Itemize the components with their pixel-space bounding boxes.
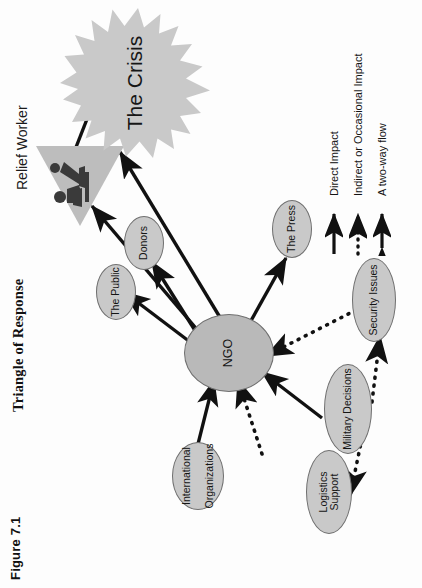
node-label-donors: Donors [138, 224, 150, 262]
dotted-arrow-icon [349, 204, 367, 256]
edge-security-ngo [266, 310, 356, 356]
node-military-decisions[interactable]: Military Decisions [324, 364, 372, 454]
node-label-the-press: The Press [286, 203, 298, 255]
node-label-the-public: The Public [110, 265, 122, 319]
node-label-logistics: Logistics Support [318, 451, 341, 533]
legend-label-direct: Direct Impact [328, 131, 340, 196]
node-the-press[interactable]: The Press [272, 200, 312, 258]
edge-intlorgs-ngo [198, 380, 214, 444]
node-label-intl-orgs: InternationalOrganizations [181, 440, 216, 513]
legend-label-twoway: A two-way flow [376, 123, 388, 196]
legend-label-indirect: Indirect or Occasional Impact [352, 54, 364, 196]
edge-ngo-press [248, 258, 286, 326]
double-arrow-icon [373, 204, 391, 256]
node-label-crisis: The Crisis [60, 8, 210, 158]
node-donors[interactable]: Donors [124, 216, 164, 270]
node-logistics-support[interactable]: Logistics Support [306, 450, 352, 534]
node-ngo[interactable]: NGO [184, 314, 274, 392]
node-the-public[interactable]: The Public [96, 264, 136, 320]
diagram-canvas: Figure 7.1 Triangle of Response Relief W… [0, 0, 422, 588]
edge-ngo-donors [152, 262, 196, 332]
legend-item-direct: Direct Impact [322, 54, 346, 256]
edge-military-security [372, 336, 380, 402]
node-label-security: Security Issues [368, 262, 380, 337]
node-label-intl-orgs-line1: International [181, 442, 193, 511]
edge-military-ngo [262, 372, 322, 418]
legend: Direct Impact Indirect or Occasional Imp… [322, 54, 394, 256]
node-international-organizations[interactable]: InternationalOrganizations [172, 442, 224, 510]
legend-item-indirect: Indirect or Occasional Impact [346, 54, 370, 256]
node-label-military: Military Decisions [342, 366, 354, 452]
node-label-intl-orgs-line2: Organizations [204, 442, 216, 511]
node-security-issues[interactable]: Security Issues [352, 258, 396, 342]
legend-item-twoway: A two-way flow [370, 54, 394, 256]
node-the-crisis[interactable]: The Crisis [60, 8, 210, 158]
relief-worker-triangle [36, 146, 124, 226]
node-label-ngo: NGO [223, 337, 235, 369]
figure-page: Figure 7.1 Triangle of Response Relief W… [0, 0, 422, 588]
edge-logistics-ngo [238, 380, 262, 454]
relief-worker-icon [48, 154, 102, 212]
solid-arrow-icon [325, 204, 343, 256]
